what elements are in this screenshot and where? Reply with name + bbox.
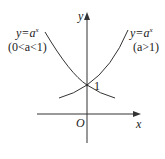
intercept-point [86, 84, 89, 87]
exponent-text: x [35, 26, 38, 34]
equation-text: y=a [130, 26, 149, 40]
condition-label-decreasing: (0<a<1) [8, 41, 47, 53]
equation-text: y=a [16, 26, 35, 40]
origin-label: O [76, 117, 85, 129]
condition-label-increasing: (a>1) [133, 41, 159, 53]
curve-decreasing [45, 32, 115, 98]
graph-svg [0, 0, 165, 159]
x-axis-label: x [136, 118, 141, 130]
curve-label-decreasing: y=ax [16, 27, 39, 39]
y-axis-arrow-icon [84, 12, 90, 20]
intercept-label: 1 [94, 80, 100, 92]
exponent-text: x [149, 26, 152, 34]
y-axis-label: y [78, 10, 83, 22]
curve-label-increasing: y=ax [130, 27, 153, 39]
exponential-graph-diagram: y=ax (0<a<1) y=ax (a>1) y x O 1 [0, 0, 165, 159]
